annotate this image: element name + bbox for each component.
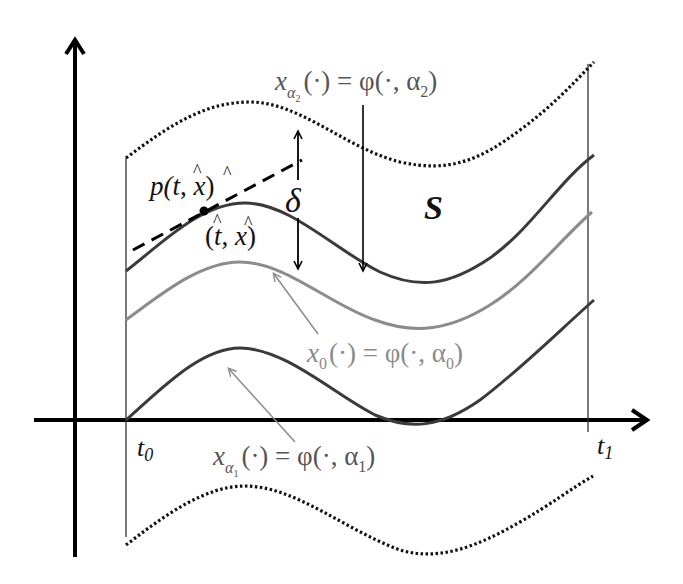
- tangent-point: [200, 207, 209, 216]
- tangent-x-hat: ^: [223, 163, 232, 183]
- alpha0-curve-label: x0(·) = φ(·, α0): [306, 338, 463, 372]
- alpha0-pointer-arrow: [274, 274, 318, 334]
- funnel-diagram: xα2(·) = φ(·, α2) x0(·) = φ(·, α0) xα1(·…: [0, 0, 683, 584]
- region-s-label: S: [424, 189, 443, 226]
- t0-label: t0: [137, 433, 153, 465]
- alpha1-pointer-arrow: [229, 369, 295, 442]
- t1-label: t1: [597, 431, 613, 463]
- delta-label: δ: [285, 182, 302, 219]
- tangent-label: p(t, x): [148, 171, 215, 201]
- alpha2-curve-label: xα2(·) = φ(·, α2): [274, 66, 437, 104]
- point-t-hat: ^: [213, 211, 222, 231]
- alpha1-curve-label: xα1(·) = φ(·, α1): [212, 441, 375, 479]
- point-x-hat: ^: [244, 213, 253, 233]
- lower-dotted-bound: [126, 476, 593, 554]
- tangent-t-hat: ^: [193, 161, 202, 181]
